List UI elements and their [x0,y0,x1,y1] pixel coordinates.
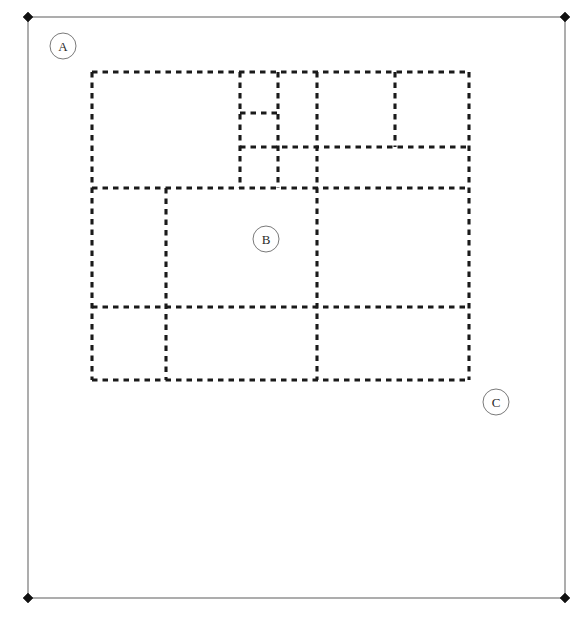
corner-marker-bottom-right [560,593,570,603]
partition-grid [92,72,469,380]
annotation-label-c: C [492,395,501,410]
annotation-b: B [253,226,279,252]
annotation-label-b: B [262,232,271,247]
corner-marker-bottom-left [23,593,33,603]
diagram-canvas: ABC [0,0,580,618]
annotation-label-a: A [58,39,68,54]
annotation-a: A [50,33,76,59]
diagram-svg: ABC [0,0,580,618]
annotation-c: C [483,389,509,415]
corner-marker-top-right [560,12,570,22]
corner-marker-top-left [23,12,33,22]
label-group: ABC [50,33,509,415]
